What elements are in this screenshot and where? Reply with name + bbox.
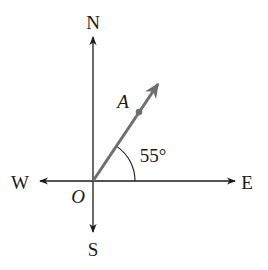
angle-arc <box>117 147 135 181</box>
origin-label: O <box>71 186 85 207</box>
point-a-dot <box>136 109 143 116</box>
south-label: S <box>88 239 99 260</box>
east-label: E <box>241 172 253 193</box>
west-label: W <box>11 172 29 193</box>
point-a-label: A <box>115 91 129 112</box>
angle-label: 55° <box>140 145 167 166</box>
north-label: N <box>86 12 100 33</box>
compass-diagram: N S E W O A 55° <box>0 0 268 270</box>
